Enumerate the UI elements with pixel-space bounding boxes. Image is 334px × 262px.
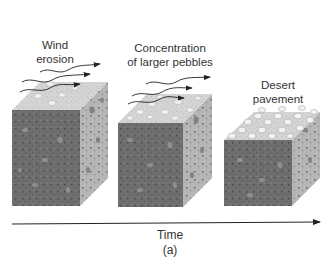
cube-wind-erosion bbox=[12, 82, 108, 207]
panel-label: (a) bbox=[140, 243, 200, 257]
time-arrow bbox=[12, 222, 320, 224]
cube-3-front bbox=[224, 140, 292, 206]
time-axis-label: Time bbox=[140, 228, 200, 242]
cube-1-front bbox=[12, 110, 80, 206]
cube-concentration bbox=[118, 94, 212, 207]
cube-desert-pavement bbox=[224, 106, 320, 207]
desert-pavement-diagram bbox=[0, 0, 334, 262]
